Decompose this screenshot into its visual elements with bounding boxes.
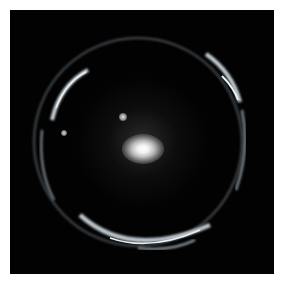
einstein-ring <box>10 10 274 274</box>
astronomical-image <box>10 10 274 274</box>
